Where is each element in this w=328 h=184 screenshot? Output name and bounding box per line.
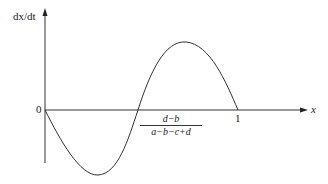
curve [45, 42, 238, 175]
x-axis-label: x [311, 103, 316, 115]
y-axis-label: dx/dt [13, 10, 36, 22]
diagram-canvas [0, 0, 328, 184]
end-label: 1 [235, 112, 241, 124]
root-denominator: a−b−c+d [140, 126, 202, 137]
origin-label: 0 [36, 103, 42, 115]
y-axis-arrow-icon [43, 8, 48, 16]
root-fraction: d−b a−b−c+d [140, 113, 202, 137]
root-numerator: d−b [140, 113, 202, 126]
x-axis-arrow-icon [300, 108, 308, 113]
